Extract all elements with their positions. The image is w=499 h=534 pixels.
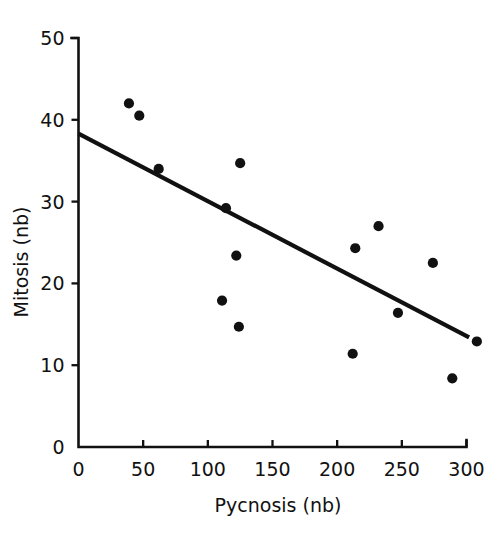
data-point	[221, 203, 231, 213]
x-tick-labels-group: 050100150200250300	[72, 458, 484, 480]
data-points-group	[124, 98, 482, 383]
data-point	[472, 336, 482, 346]
data-point	[231, 250, 241, 260]
y-tick-label: 40	[40, 109, 64, 131]
x-tick-label: 0	[72, 458, 84, 480]
y-tick-label: 20	[40, 272, 64, 294]
scatter-plot-figure: 050100150200250300 01020304050 Pycnosis …	[0, 0, 499, 534]
x-tick-label: 250	[384, 458, 420, 480]
data-point	[348, 349, 358, 359]
x-axis-title: Pycnosis (nb)	[215, 494, 342, 516]
x-tick-label: 300	[448, 458, 484, 480]
y-tick-label: 10	[40, 354, 64, 376]
data-point	[154, 164, 164, 174]
y-tick-label: 30	[40, 191, 64, 213]
data-point	[235, 158, 245, 168]
data-point	[447, 373, 457, 383]
y-tick-label: 0	[52, 436, 64, 458]
y-tick-label: 50	[40, 27, 64, 49]
data-point	[134, 111, 144, 121]
data-point	[217, 295, 227, 305]
x-tick-label: 150	[254, 458, 290, 480]
x-tick-label: 100	[190, 458, 226, 480]
x-tick-label: 50	[131, 458, 155, 480]
data-point	[393, 308, 403, 318]
data-point	[350, 243, 360, 253]
data-point	[428, 258, 438, 268]
regression-line-group	[79, 134, 470, 338]
data-point	[373, 221, 383, 231]
data-point	[124, 98, 134, 108]
data-point	[234, 322, 244, 332]
plot-canvas: 050100150200250300 01020304050 Pycnosis …	[0, 0, 499, 534]
x-tick-label: 200	[319, 458, 355, 480]
regression-line	[79, 134, 470, 338]
y-axis-title: Mitosis (nb)	[10, 207, 32, 318]
y-tick-labels-group: 01020304050	[40, 27, 64, 458]
